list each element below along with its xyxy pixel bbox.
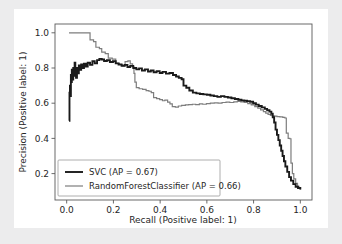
x-tick-label: 0.4 xyxy=(153,205,168,215)
y-tick-label: 0.8 xyxy=(35,63,50,73)
y-tick-label: 1.0 xyxy=(35,28,50,38)
x-tick-label: 0.8 xyxy=(246,205,261,215)
y-tick-label: 0.2 xyxy=(35,169,49,179)
figure-canvas: 0.00.20.40.60.81.0 0.20.40.60.81.0 Recal… xyxy=(14,9,328,228)
y-tick-label: 0.4 xyxy=(35,134,50,144)
x-tick-label: 1.0 xyxy=(293,205,308,215)
x-axis-label: Recall (Positive label: 1) xyxy=(129,215,237,225)
legend-label-random-forest: RandomForestClassifier (AP = 0.66) xyxy=(89,181,241,191)
y-tick-label: 0.6 xyxy=(35,98,50,108)
y-axis-label: Precision (Positive label: 1) xyxy=(18,52,28,173)
legend-label-svc: SVC (AP = 0.67) xyxy=(89,167,158,177)
x-tick-label: 0.2 xyxy=(106,205,120,215)
x-tick-label: 0.0 xyxy=(60,205,75,215)
x-tick-label: 0.6 xyxy=(200,205,215,215)
precision-recall-plot: 0.00.20.40.60.81.0 0.20.40.60.81.0 Recal… xyxy=(14,9,328,228)
chart-legend[interactable]: SVC (AP = 0.67) RandomForestClassifier (… xyxy=(58,160,241,196)
